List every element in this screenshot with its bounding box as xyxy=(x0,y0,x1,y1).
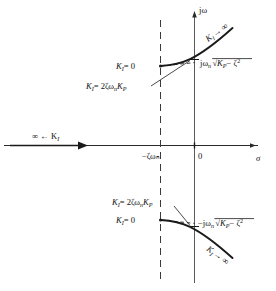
lower-ki-crossing-kp-subscript: P xyxy=(148,202,153,208)
upper-crossing-jomega: jω xyxy=(199,58,208,68)
origin-label: 0 xyxy=(198,151,202,161)
upper-ki-zero-value: = 0 xyxy=(124,61,135,71)
upper-ki-zero-label: KI= 0 xyxy=(115,61,135,72)
real-axis-branch-label: ∞ ← KI xyxy=(32,131,60,142)
upper-branch-infinity-arrow: → ∞ xyxy=(210,21,230,39)
lower-crossing-value-label: −jωn√KP− ζ2 xyxy=(198,218,254,229)
upper-crossing-omega-subscript: n xyxy=(208,63,211,69)
lower-pole-marker xyxy=(159,219,162,222)
upper-pole-marker xyxy=(159,65,162,68)
asymptote-label: −ζωₙ xyxy=(142,151,160,161)
imaginary-axis-arrowhead xyxy=(192,11,197,18)
svg-text:∞ ← KI: ∞ ← KI xyxy=(32,131,60,142)
svg-text:−jωn√KP− ζ2: −jωn√KP− ζ2 xyxy=(198,218,243,229)
upper-crossing-radical-rest: − ζ xyxy=(227,58,238,68)
real-axis-branch-text: ∞ ← K xyxy=(32,131,58,141)
imaginary-axis-label: jω xyxy=(198,5,207,15)
lower-crossing-jomega: −jω xyxy=(198,218,211,228)
lower-branch-infinity-label: KI→ ∞ xyxy=(203,243,231,268)
svg-text:KI= 2ζωnKP: KI= 2ζωnKP xyxy=(85,81,127,92)
asymptote-label-text: −ζωₙ xyxy=(142,151,160,161)
root-locus-svg: jω σ 0 −ζωₙ ∞ ← KI KI= 0 KI= 0 xyxy=(0,0,276,291)
svg-text:KI= 0: KI= 0 xyxy=(115,61,135,72)
real-axis-arrowhead xyxy=(250,143,256,148)
svg-text:KI→ ∞: KI→ ∞ xyxy=(203,243,231,268)
lower-ki-crossing-label: KI= 2ζωnKP xyxy=(111,197,153,208)
upper-ki-crossing-kp-subscript: P xyxy=(122,86,127,92)
upper-ki-crossing-label: KI= 2ζωnKP xyxy=(85,81,127,92)
real-axis-locus-arrow xyxy=(78,142,88,150)
svg-text:jωn√KP− ζ2: jωn√KP− ζ2 xyxy=(199,58,240,69)
svg-text:−ζωₙ: −ζωₙ xyxy=(142,151,160,161)
lower-crossing-radical-rest: − ζ xyxy=(229,218,240,228)
lower-ki-zero-label: KI= 0 xyxy=(115,215,135,226)
lower-ki-zero-value: = 0 xyxy=(124,215,135,225)
upper-ki-crossing-value: = 2ζω xyxy=(94,81,115,91)
real-axis-label: σ xyxy=(256,153,261,163)
root-locus-figure: jω σ 0 −ζωₙ ∞ ← KI KI= 0 KI= 0 xyxy=(0,0,276,291)
svg-text:KI= 2ζωnKP: KI= 2ζωnKP xyxy=(111,197,153,208)
lower-crossing-omega-subscript: n xyxy=(211,223,214,229)
upper-crossing-value-label: jωn√KP− ζ2 xyxy=(199,58,252,69)
svg-text:KI= 0: KI= 0 xyxy=(115,215,135,226)
lower-ki-crossing-value: = 2ζω xyxy=(120,197,141,207)
real-axis-branch-subscript: I xyxy=(56,136,60,142)
lower-branch-infinity-arrow: → ∞ xyxy=(212,249,232,267)
